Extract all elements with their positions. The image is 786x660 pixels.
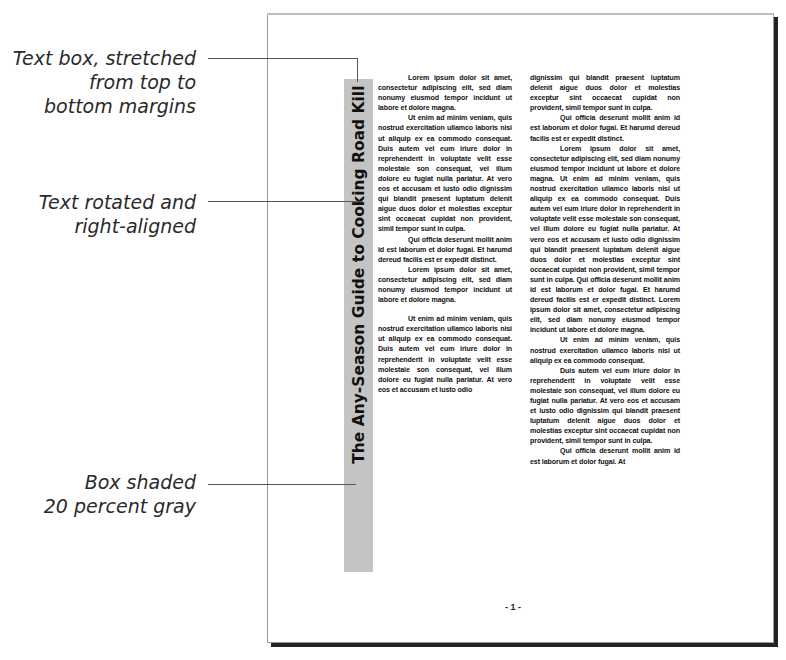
callout-line: 20 percent gray	[44, 494, 196, 518]
paragraph: Ut enim ad minim veniam, quis nostrud ex…	[530, 335, 680, 365]
callout-line: bottom margins	[13, 94, 196, 118]
callout-line: Text box, stretched	[13, 46, 196, 70]
page-top-edge	[267, 13, 774, 15]
leader-line-rotated	[208, 201, 363, 202]
sidebar-rotated-title: The Any-Season Guide to Cooking Road Kil…	[350, 79, 368, 572]
paragraph: Qui officia deserunt mollit anim id est …	[530, 113, 680, 143]
paragraph: Lorem ipsum dolor sit amet, consectetur …	[530, 144, 680, 336]
callout-shaded-box: Box shaded 20 percent gray	[44, 470, 196, 518]
paragraph: Qui officia deserunt mollit anim id est …	[530, 446, 680, 466]
sidebar-text-box: The Any-Season Guide to Cooking Road Kil…	[344, 79, 373, 572]
paragraph: Qui officia deserunt mollit anim id est …	[378, 235, 512, 265]
page-number: - 1 -	[505, 602, 521, 612]
callout-line: from top to	[13, 70, 196, 94]
callout-rotated-text: Text rotated and right-aligned	[39, 190, 196, 238]
callout-line: right-aligned	[39, 214, 196, 238]
leader-line-text-box-drop	[357, 58, 358, 82]
text-column-right: dignissim qui blandit praesent luptatum …	[530, 73, 680, 467]
paragraph: dignissim qui blandit praesent luptatum …	[530, 73, 680, 113]
paragraph: Duis autem vel eum iriure dolor in repre…	[530, 366, 680, 447]
paragraph: Lorem ipsum dolor sit amet, consectetur …	[378, 73, 512, 113]
leader-line-shaded	[208, 484, 356, 485]
callout-line: Text rotated and	[39, 190, 196, 214]
callout-text-box: Text box, stretched from top to bottom m…	[13, 46, 196, 118]
paragraph: Ut enim ad minim veniam, quis nostrud ex…	[378, 314, 512, 395]
callout-line: Box shaded	[44, 470, 196, 494]
paragraph: Lorem ipsum dolor sit amet, consectetur …	[378, 265, 512, 305]
text-column-left: Lorem ipsum dolor sit amet, consectetur …	[378, 73, 512, 395]
paragraph: Ut enim ad minim veniam, quis nostrud ex…	[378, 113, 512, 234]
leader-line-text-box	[208, 58, 358, 59]
